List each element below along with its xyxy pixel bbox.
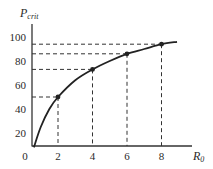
axes: 2040608010002468 xyxy=(10,24,193,162)
data-point xyxy=(90,67,95,72)
marked-points xyxy=(56,42,164,100)
curve xyxy=(34,42,177,148)
x-tick-label: 0 xyxy=(22,150,28,162)
x-axis-label: R0 xyxy=(192,149,204,164)
y-tick-label: 80 xyxy=(15,55,27,67)
x-axis-label-subscript: 0 xyxy=(200,155,204,164)
x-tick-label: 6 xyxy=(124,150,130,162)
data-point xyxy=(159,42,164,47)
y-tick-label: 100 xyxy=(10,31,27,43)
x-tick-label: 4 xyxy=(90,150,96,162)
y-tick-label: 60 xyxy=(15,79,27,91)
data-point xyxy=(56,95,61,100)
y-tick-label: 40 xyxy=(15,103,27,115)
axis-labels: PcritR0 xyxy=(19,6,204,164)
x-tick-label: 2 xyxy=(55,150,61,162)
chart: 2040608010002468 PcritR0 xyxy=(0,0,213,169)
curve-line xyxy=(34,42,177,148)
data-point xyxy=(125,51,130,56)
x-tick-label: 8 xyxy=(159,150,165,162)
y-tick-label: 20 xyxy=(15,127,27,139)
y-axis-label: Pcrit xyxy=(19,6,39,21)
drop-lines xyxy=(32,44,162,146)
y-axis-label-subscript: crit xyxy=(27,12,39,21)
